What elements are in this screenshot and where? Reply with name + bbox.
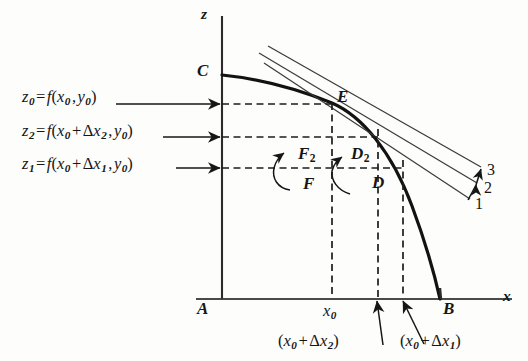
x-callout-x0-dx2-plus: +	[297, 331, 309, 350]
equation-z2: z2=f(x0+Δx2,y0)	[22, 123, 133, 141]
point-label-C: C	[197, 62, 208, 79]
x-callout-x0-dx1-close: )	[455, 331, 461, 350]
x-callout-x0-dx1-plus: +	[419, 331, 431, 350]
curved-arrow-F-to-F2	[274, 153, 290, 190]
callout-arrow-x0dx2	[377, 301, 383, 345]
x-tick-label-x0: x0	[323, 303, 336, 321]
x-tick-label-x0-sub: 0	[330, 309, 336, 321]
equation-z2-delta-base: x	[93, 121, 100, 140]
equation-z0-close: )	[91, 87, 97, 106]
point-label-F2: F2	[298, 145, 316, 165]
x-callout-x0-dx2-delta: Δ	[309, 331, 320, 350]
equation-z1-close: )	[127, 154, 133, 173]
point-label-B: B	[443, 300, 454, 317]
line-label-3: 3	[487, 162, 495, 178]
line-label-connector-2-3	[476, 169, 481, 185]
equation-z2-delta: Δ	[83, 121, 94, 140]
x-axis-label: x	[503, 288, 511, 304]
equation-z1-plus: +	[70, 154, 82, 173]
equation-z2-comma: ,	[107, 121, 114, 140]
equation-z1-delta-base: x	[93, 154, 100, 173]
point-label-A: A	[197, 300, 208, 317]
figure-canvas: z0=f(x0,y0) z2=f(x0+Δx2,y0) z1=f(x0+Δx1,…	[0, 0, 528, 361]
equation-z2-lhs-sub: 2	[28, 129, 34, 141]
point-label-F2-sub: 2	[309, 152, 315, 165]
equation-z0-comma: ,	[70, 87, 77, 106]
equation-z1-delta-sub: 1	[101, 162, 107, 174]
equation-z0-equals: =	[35, 87, 47, 106]
equation-z1-delta: Δ	[83, 154, 94, 173]
point-label-D: D	[372, 174, 384, 191]
z-axis-label: z	[201, 6, 207, 22]
secant-tangent-lines	[259, 46, 481, 199]
equation-z1-lhs-sub: 1	[28, 162, 34, 174]
curved-arrow-D-to-D2	[332, 157, 350, 194]
x-callout-x0-dx2-close: )	[333, 331, 339, 350]
x-callout-x0-dx1-delta: Δ	[431, 331, 442, 350]
equation-z2-close: )	[127, 121, 133, 140]
secant-line-1	[264, 63, 470, 199]
function-curve	[222, 75, 440, 299]
point-label-F: F	[303, 175, 314, 192]
x-callout-x0-dx1: (x0+Δx1)	[400, 333, 461, 351]
equation-z1: z1=f(x0+Δx1,y0)	[22, 156, 133, 174]
point-label-D2-sub: 2	[363, 152, 369, 165]
line-label-2: 2	[484, 180, 492, 196]
x-callout-x0-dx2: (x0+Δx2)	[278, 333, 339, 351]
point-label-D2-base: D	[351, 144, 363, 163]
equation-z2-delta-sub: 2	[101, 129, 107, 141]
x-callout-x0-dx1-base: x	[406, 331, 413, 350]
equation-z1-equals: =	[35, 154, 47, 173]
x-callout-x0-dx2-base: x	[284, 331, 291, 350]
equation-z2-equals: =	[35, 121, 47, 140]
equation-z1-comma: ,	[107, 154, 114, 173]
line-label-1: 1	[475, 196, 483, 212]
point-label-D2: D2	[351, 145, 370, 165]
point-label-E: E	[337, 88, 348, 105]
equation-z0-arg2: y	[78, 87, 85, 106]
point-label-F2-base: F	[298, 144, 309, 163]
tick-B	[440, 288, 441, 299]
equation-z0-lhs-sub: 0	[28, 95, 34, 107]
equation-z0: z0=f(x0,y0)	[22, 89, 96, 107]
equation-z2-plus: +	[70, 121, 82, 140]
